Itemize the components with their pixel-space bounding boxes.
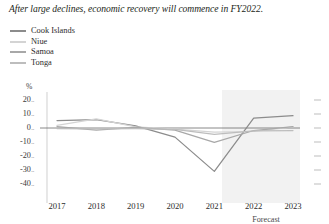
legend-swatch-icon <box>10 62 26 64</box>
legend-item-label: Samoa <box>31 47 54 57</box>
y-tick-dots: .. <box>31 123 34 132</box>
y-tick-dots: .. <box>31 151 34 160</box>
forecast-shaded-region <box>222 90 300 203</box>
forecast-axis-label: Forecast <box>236 215 296 224</box>
y-tick-dots: .. <box>31 95 34 104</box>
right-axis-ticks <box>314 100 321 184</box>
legend-item-label: Cook Islands <box>31 26 75 36</box>
y-axis-tick-label: -20.. <box>8 151 34 160</box>
legend-item-label: Tonga <box>31 58 52 68</box>
y-axis-tick-label: -40.. <box>8 179 34 188</box>
y-tick-dots: .. <box>31 137 34 146</box>
y-axis-tick-label: 10.. <box>8 109 34 118</box>
legend-item[interactable]: Tonga <box>10 58 75 69</box>
y-axis-tick-label: 20.. <box>8 95 34 104</box>
y-axis-tick-label: -10.. <box>8 137 34 146</box>
legend-swatch-icon <box>10 30 26 32</box>
legend-swatch-icon <box>10 51 26 53</box>
x-axis-tick-label: 2023 <box>276 201 310 211</box>
x-axis-tick-label: 2022 <box>237 201 271 211</box>
y-tick-dots: .. <box>31 179 34 188</box>
x-axis-tick-label: 2017 <box>40 201 74 211</box>
x-axis-tick-label: 2020 <box>158 201 192 211</box>
y-tick-dots: .. <box>31 109 34 118</box>
y-axis-tick-label: 0.. <box>8 123 34 132</box>
legend-item[interactable]: Cook Islands <box>10 26 75 37</box>
chart-title: After large declines, economic recovery … <box>9 3 321 14</box>
legend-swatch-icon <box>10 41 26 43</box>
chart-legend: Cook IslandsNiueSamoaTonga <box>10 26 75 68</box>
x-axis-tick-label: 2018 <box>79 201 113 211</box>
y-tick-dots: .. <box>31 165 34 174</box>
legend-item-label: Niue <box>31 37 47 47</box>
y-axis-tick-label: -30.. <box>8 165 34 174</box>
legend-item[interactable]: Niue <box>10 37 75 48</box>
x-axis-tick-label: 2019 <box>119 201 153 211</box>
legend-item[interactable]: Samoa <box>10 47 75 58</box>
x-axis-tick-label: 2021 <box>197 201 231 211</box>
